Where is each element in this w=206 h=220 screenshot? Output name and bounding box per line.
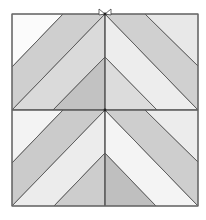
vertex-middle-center bbox=[104, 109, 107, 112]
vertex-top-center bbox=[104, 13, 107, 16]
quilt-diagram bbox=[0, 0, 206, 220]
